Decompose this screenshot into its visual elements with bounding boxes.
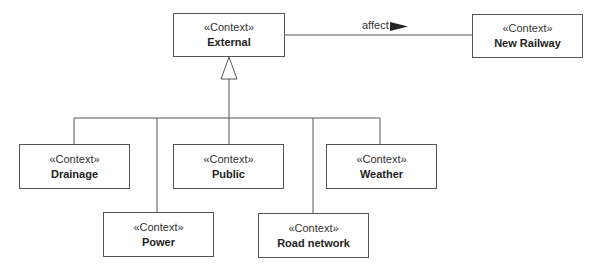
node-public[interactable]: «Context» Public [173, 144, 284, 189]
node-road-network[interactable]: «Context» Road network [258, 213, 369, 258]
stereotype-label: «Context» [288, 221, 338, 236]
generalization-arrowhead-icon [221, 57, 237, 79]
node-weather[interactable]: «Context» Weather [326, 144, 437, 189]
node-name: Road network [277, 236, 350, 251]
stereotype-label: «Context» [203, 152, 253, 167]
stereotype-label: «Context» [133, 220, 183, 235]
node-name: Power [142, 235, 175, 250]
node-new-railway[interactable]: «Context» New Railway [472, 14, 583, 58]
node-name: Drainage [51, 167, 98, 182]
association-direction-icon [390, 22, 408, 31]
stereotype-label: «Context» [356, 152, 406, 167]
node-external[interactable]: «Context» External [173, 13, 285, 57]
node-name: Weather [360, 167, 403, 182]
node-power[interactable]: «Context» Power [103, 212, 214, 257]
node-name: New Railway [494, 36, 561, 51]
stereotype-label: «Context» [204, 20, 254, 35]
stereotype-label: «Context» [502, 21, 552, 36]
node-name: External [207, 35, 250, 50]
association-label: affect [362, 19, 389, 31]
node-drainage[interactable]: «Context» Drainage [19, 144, 130, 189]
stereotype-label: «Context» [49, 152, 99, 167]
node-name: Public [212, 167, 245, 182]
